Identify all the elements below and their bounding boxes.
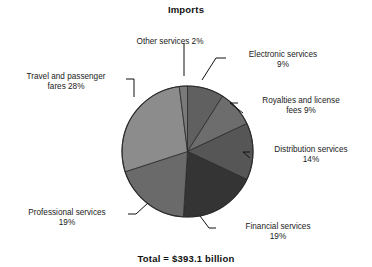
slice-label-professional-line1: Professional services bbox=[6, 208, 128, 218]
slice-label-distribution-line1: Distribution services bbox=[252, 145, 370, 155]
leader-line-electronic-services bbox=[202, 58, 226, 80]
slice-label-travel-fares: Travel and passenger fares 28% bbox=[4, 72, 128, 92]
slice-label-financial-line1: Financial services bbox=[218, 222, 338, 232]
slice-label-financial-line2: 19% bbox=[218, 232, 338, 242]
pie-chart-figure: Imports Other services 2% Electronic ser… bbox=[0, 0, 372, 267]
slice-label-travel-line1: Travel and passenger bbox=[4, 72, 128, 82]
slice-label-royalties: Royalties and license fees 9% bbox=[240, 96, 362, 116]
slice-label-other-services-text: Other services 2% bbox=[137, 37, 204, 46]
slice-label-electronic-services: Electronic services 9% bbox=[228, 50, 338, 70]
slice-label-electronic-line1: Electronic services bbox=[228, 50, 338, 60]
slice-label-distribution-services: Distribution services 14% bbox=[252, 145, 370, 165]
leader-line-professional-services bbox=[128, 203, 148, 214]
chart-total-caption: Total = $393.1 billion bbox=[0, 253, 372, 264]
slice-label-electronic-line2: 9% bbox=[228, 60, 338, 70]
slice-label-royalties-line1: Royalties and license bbox=[240, 96, 362, 106]
leader-line-financial-services bbox=[200, 216, 216, 228]
slice-label-other-services: Other services 2% bbox=[108, 37, 232, 47]
slice-label-travel-line2: fares 28% bbox=[4, 82, 128, 92]
slice-label-professional-line2: 19% bbox=[6, 218, 128, 228]
slice-label-distribution-line2: 14% bbox=[252, 155, 370, 165]
slice-label-royalties-line2: fees 9% bbox=[240, 106, 362, 116]
slice-label-professional-services: Professional services 19% bbox=[6, 208, 128, 228]
slice-label-financial-services: Financial services 19% bbox=[218, 222, 338, 242]
